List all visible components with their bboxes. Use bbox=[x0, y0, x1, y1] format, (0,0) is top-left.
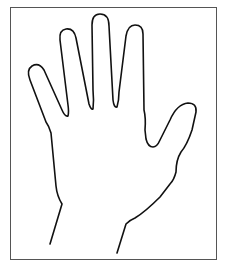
hand-outline-drawing bbox=[0, 0, 227, 267]
hand-outline-icon bbox=[28, 14, 196, 253]
